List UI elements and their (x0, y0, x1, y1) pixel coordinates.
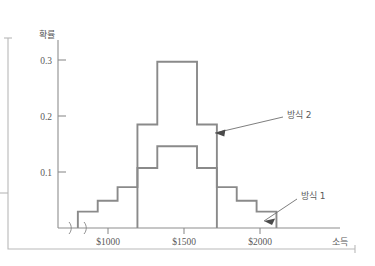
x-tick-label-1500: $1500 (172, 237, 196, 247)
y-axis-title: 확률 (39, 29, 55, 40)
y-tick-label-0.2: 0.2 (40, 112, 52, 122)
y-tick-marks (58, 60, 66, 172)
x-axis-title: 소득 (332, 237, 348, 247)
annotation-label-method-2: 방식 2 (287, 110, 312, 120)
annotation-label-method-1: 방식 1 (301, 191, 326, 201)
annotation-method-1: 방식 1 (264, 191, 326, 225)
annotation-method-2: 방식 2 (215, 110, 312, 136)
histogram-outline-method-1 (78, 146, 277, 228)
probability-histogram-chart: 0.3 0.2 0.1 확률 $1000 $1500 $2000 소득 방식 2 (0, 0, 375, 266)
x-tick-label-1000: $1000 (96, 237, 120, 247)
histogram-outline-method-2 (137, 62, 216, 228)
x-tick-marks (108, 228, 260, 234)
annotation-leader-method-1 (264, 199, 297, 221)
axes-group (58, 40, 340, 228)
y-tick-label-0.3: 0.3 (40, 56, 52, 66)
y-tick-label-0.1: 0.1 (40, 168, 52, 178)
frame-border-line (8, 38, 355, 249)
x-tick-label-2000: $2000 (248, 237, 272, 247)
chart-canvas: 0.3 0.2 0.1 확률 $1000 $1500 $2000 소득 방식 2 (0, 0, 375, 266)
